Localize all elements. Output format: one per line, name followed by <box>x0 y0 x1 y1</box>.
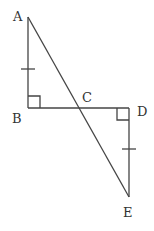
segment-ae <box>28 17 129 197</box>
label-e: E <box>123 205 133 220</box>
label-a: A <box>12 9 23 24</box>
label-c: C <box>82 90 92 105</box>
label-d: D <box>137 104 147 119</box>
label-b: B <box>12 111 22 126</box>
right-angle-mark-d <box>117 108 129 120</box>
geometry-diagram: A B C D E <box>0 0 154 231</box>
right-angle-mark-b <box>28 96 40 108</box>
